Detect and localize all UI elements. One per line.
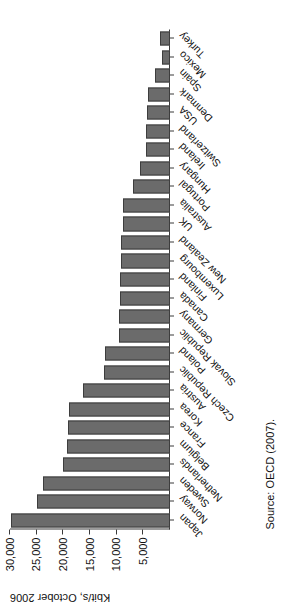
category-tick bbox=[170, 297, 174, 298]
category-tick bbox=[170, 500, 174, 501]
bar-slot: Sweden bbox=[10, 473, 170, 492]
bar-slot: Switzerland bbox=[10, 122, 170, 141]
bar-slot: Japan bbox=[10, 510, 170, 529]
category-tick bbox=[170, 463, 174, 464]
category-tick bbox=[170, 315, 174, 316]
bar-slot: France bbox=[10, 418, 170, 437]
value-tick: 5,000 bbox=[142, 529, 143, 534]
bar bbox=[69, 402, 170, 416]
bar bbox=[140, 161, 170, 175]
bar bbox=[148, 87, 170, 101]
bar-slot: Canada bbox=[10, 288, 170, 307]
bar-slot: Czech Republic bbox=[10, 362, 170, 381]
value-tick: 20,000 bbox=[62, 529, 63, 534]
category-tick bbox=[170, 352, 174, 353]
category-tick bbox=[170, 445, 174, 446]
bar bbox=[68, 420, 170, 434]
bar bbox=[155, 68, 170, 82]
category-tick bbox=[170, 204, 174, 205]
value-tick: 25,000 bbox=[36, 529, 37, 534]
value-tick-label: 5,000 bbox=[137, 537, 149, 565]
category-tick bbox=[170, 56, 174, 57]
category-tick bbox=[170, 167, 174, 168]
bar bbox=[146, 124, 170, 138]
category-tick bbox=[170, 223, 174, 224]
value-tick-label: 20,000 bbox=[57, 537, 69, 571]
bar-slot: Norway bbox=[10, 492, 170, 511]
bar bbox=[120, 272, 170, 286]
bar-slot: Mexico bbox=[10, 48, 170, 67]
bar-slot: Turkey bbox=[10, 29, 170, 48]
bar-slot: Denmark bbox=[10, 85, 170, 104]
bar-slot: USA bbox=[10, 103, 170, 122]
bar-slot: Korea bbox=[10, 399, 170, 418]
bar bbox=[67, 439, 170, 453]
category-tick bbox=[170, 111, 174, 112]
bar-slot: Poland bbox=[10, 344, 170, 363]
category-tick bbox=[170, 482, 174, 483]
category-tick bbox=[170, 37, 174, 38]
value-tick-label: 25,000 bbox=[30, 537, 42, 571]
bar-slot: New Zealand bbox=[10, 233, 170, 252]
value-axis-title: Kbit/s, October 2006 bbox=[10, 591, 110, 603]
bar bbox=[133, 179, 170, 193]
bar bbox=[147, 105, 170, 119]
bar bbox=[119, 328, 170, 342]
bar bbox=[63, 457, 170, 471]
value-tick: 15,000 bbox=[89, 529, 90, 534]
bar-slot: Ireland bbox=[10, 140, 170, 159]
bar bbox=[123, 216, 170, 230]
category-tick bbox=[170, 185, 174, 186]
bar-slot: Hungary bbox=[10, 159, 170, 178]
bar-slot: Netherlands bbox=[10, 455, 170, 474]
category-tick bbox=[170, 130, 174, 131]
bar bbox=[146, 142, 170, 156]
category-tick bbox=[170, 74, 174, 75]
bar-slot: Finland bbox=[10, 270, 170, 289]
bar-slot: UK bbox=[10, 214, 170, 233]
bar bbox=[43, 476, 170, 490]
plot-area: JapanNorwaySwedenNetherlandsBelgiumFranc… bbox=[10, 29, 170, 529]
value-tick: 10,000 bbox=[116, 529, 117, 534]
bar bbox=[120, 291, 170, 305]
source-note: Source: OECD (2007). bbox=[264, 418, 276, 529]
bar bbox=[121, 254, 170, 268]
bar-slot: Belgium bbox=[10, 436, 170, 455]
bar-slot: Germany bbox=[10, 307, 170, 326]
bar-slot: Austria bbox=[10, 381, 170, 400]
bar-chart-figure: Kbit/s, October 2006 JapanNorwaySwedenNe… bbox=[0, 0, 282, 609]
category-tick bbox=[170, 371, 174, 372]
bar bbox=[162, 50, 170, 64]
category-tick bbox=[170, 260, 174, 261]
bar bbox=[37, 494, 170, 508]
bar-slot: Luxembourg bbox=[10, 251, 170, 270]
bar bbox=[11, 513, 170, 527]
category-tick bbox=[170, 278, 174, 279]
bar bbox=[123, 198, 170, 212]
bar-slot: Australia bbox=[10, 196, 170, 215]
bar bbox=[83, 383, 170, 397]
bar bbox=[160, 31, 170, 45]
bar-slot: Portugal bbox=[10, 177, 170, 196]
bar-slot: Slovak Republic bbox=[10, 325, 170, 344]
value-tick: 30,000 bbox=[9, 529, 10, 534]
category-tick bbox=[170, 148, 174, 149]
bar bbox=[105, 346, 170, 360]
value-tick-label: 15,000 bbox=[84, 537, 96, 571]
bar-slot: Spain bbox=[10, 66, 170, 85]
bar bbox=[121, 235, 170, 249]
category-tick bbox=[170, 334, 174, 335]
bar bbox=[104, 365, 170, 379]
category-tick bbox=[170, 408, 174, 409]
rotated-figure-container: Kbit/s, October 2006 JapanNorwaySwedenNe… bbox=[0, 0, 282, 609]
value-tick-label: 10,000 bbox=[110, 537, 122, 571]
category-tick bbox=[170, 241, 174, 242]
category-tick bbox=[170, 519, 174, 520]
category-tick bbox=[170, 93, 174, 94]
bar bbox=[119, 309, 170, 323]
category-tick bbox=[170, 426, 174, 427]
category-tick bbox=[170, 389, 174, 390]
bar-series: JapanNorwaySwedenNetherlandsBelgiumFranc… bbox=[10, 29, 170, 529]
value-tick-label: 30,000 bbox=[4, 537, 16, 571]
